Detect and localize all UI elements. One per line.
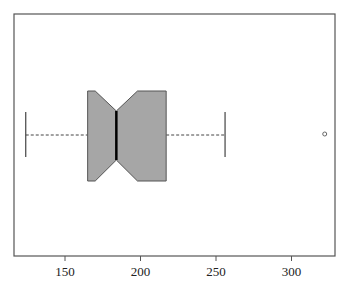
x-tick-label: 250 (206, 264, 226, 279)
x-axis: 150200250300 (55, 256, 301, 279)
outlier-point (323, 132, 327, 136)
notched-box (88, 91, 167, 181)
x-tick-label: 300 (282, 264, 302, 279)
x-tick-label: 200 (131, 264, 151, 279)
box-group (26, 91, 327, 181)
x-tick-label: 150 (55, 264, 75, 279)
boxplot-chart: 150200250300 (0, 0, 348, 292)
